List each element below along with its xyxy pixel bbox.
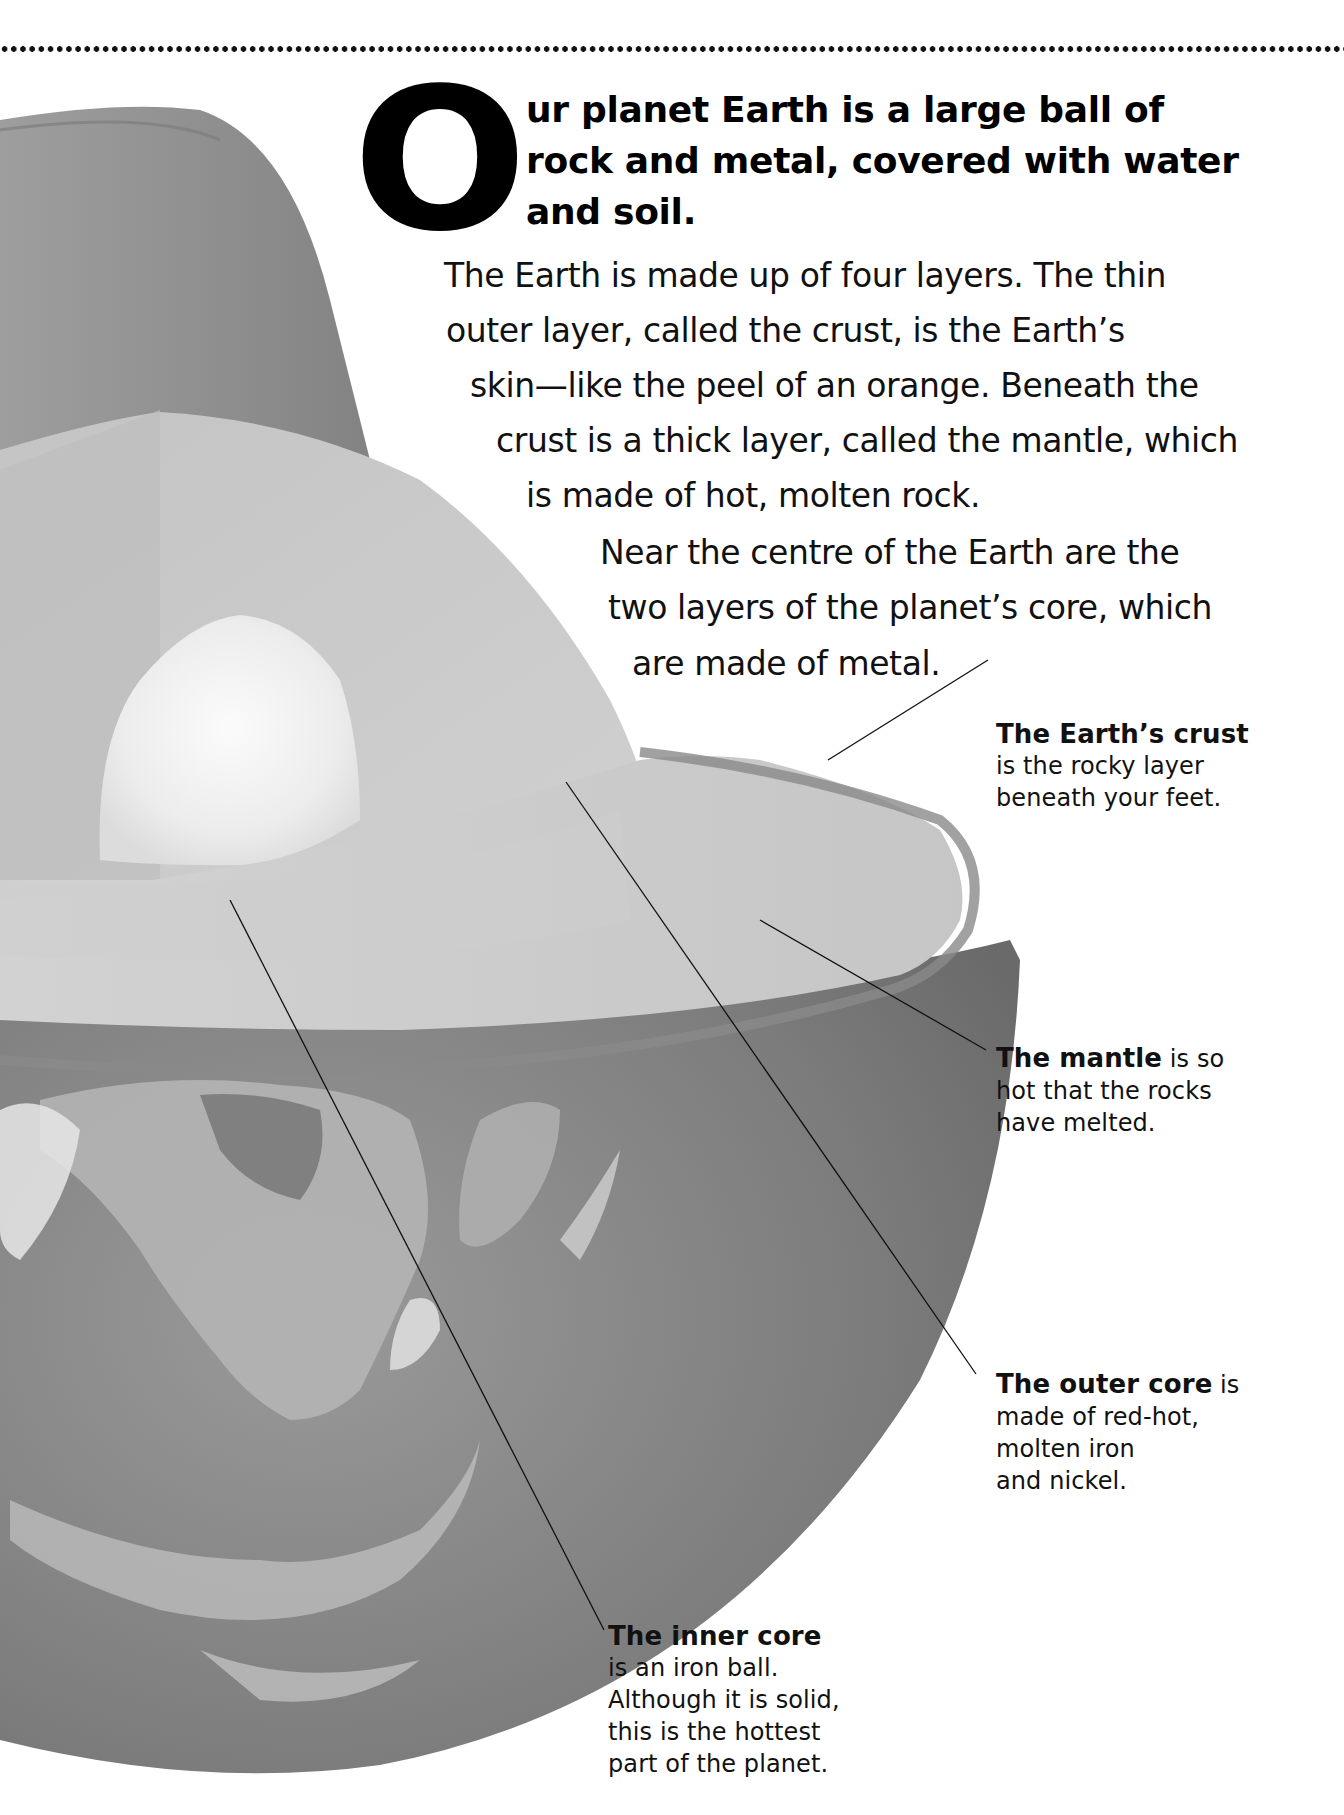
caption-outer-core-line: and nickel. [996,1465,1239,1497]
caption-mantle: The mantle is so hot that the rocks have… [996,1042,1224,1139]
caption-inner-core-line: Although it is solid, [608,1684,840,1716]
body-line: outer layer, called the crust, is the Ea… [446,303,1125,359]
body-line: are made of metal. [632,636,940,692]
body-line: crust is a thick layer, called the mantl… [496,413,1238,469]
caption-outer-core-line: made of red-hot, [996,1401,1239,1433]
caption-outer-core-line: molten iron [996,1433,1239,1465]
body-line: skin—like the peel of an orange. Beneath… [470,358,1199,414]
caption-outer-core: The outer core is made of red-hot, molte… [996,1368,1239,1497]
lede-line: and soil. [526,186,1326,237]
caption-crust: The Earth’s crust is the rocky layer ben… [996,718,1249,814]
body-line: Near the centre of the Earth are the [600,525,1179,581]
lede-heading: ur planet Earth is a large ball of rock … [526,84,1326,237]
lede-line: rock and metal, covered with water [526,135,1326,186]
caption-crust-line: beneath your feet. [996,782,1249,814]
caption-crust-title: The Earth’s crust [996,718,1249,750]
caption-crust-line: is the rocky layer [996,750,1249,782]
caption-inner-core: The inner core is an iron ball. Although… [608,1620,840,1780]
body-line: The Earth is made up of four layers. The… [444,248,1166,304]
body-line: is made of hot, molten rock. [526,468,980,524]
lede-line: ur planet Earth is a large ball of [526,84,1326,135]
caption-inner-core-line: is an iron ball. [608,1652,840,1684]
caption-outer-core-title: The outer core [996,1369,1212,1399]
caption-inner-core-line: part of the planet. [608,1748,840,1780]
caption-mantle-title-suffix: is so [1162,1045,1224,1073]
caption-mantle-line: hot that the rocks [996,1075,1224,1107]
caption-mantle-line: have melted. [996,1107,1224,1139]
caption-inner-core-line: this is the hottest [608,1716,840,1748]
caption-outer-core-title-suffix: is [1212,1371,1239,1399]
body-line: two layers of the planet’s core, which [608,580,1212,636]
drop-cap: O [385,86,494,234]
caption-mantle-title: The mantle [996,1043,1162,1073]
caption-inner-core-title: The inner core [608,1620,840,1652]
